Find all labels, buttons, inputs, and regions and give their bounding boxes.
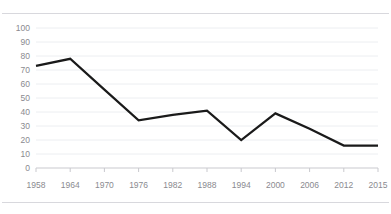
axis-group bbox=[36, 168, 378, 172]
chart-top-rule bbox=[2, 13, 389, 14]
y-axis-tick-label: 30 bbox=[0, 122, 30, 131]
plot-area: 1009080706050403020100 19581964197019761… bbox=[0, 16, 391, 200]
y-axis-tick-label: 20 bbox=[0, 136, 30, 145]
plot-svg bbox=[0, 16, 391, 200]
chart-title bbox=[0, 0, 391, 2]
y-axis-tick-label: 70 bbox=[0, 66, 30, 75]
x-axis-tick-label: 2015 bbox=[358, 180, 391, 190]
y-axis-tick-label: 100 bbox=[0, 24, 30, 33]
y-axis-tick-label: 90 bbox=[0, 38, 30, 47]
data-series-group bbox=[36, 59, 378, 146]
y-axis-tick-label: 50 bbox=[0, 94, 30, 103]
data-line-series-0 bbox=[36, 59, 378, 146]
y-axis-tick-label: 10 bbox=[0, 150, 30, 159]
chart-bottom-rule bbox=[2, 202, 389, 203]
y-axis-tick-label: 80 bbox=[0, 52, 30, 61]
y-axis-tick-label: 60 bbox=[0, 80, 30, 89]
y-axis-tick-label: 0 bbox=[0, 164, 30, 173]
line-chart-figure: 1009080706050403020100 19581964197019761… bbox=[0, 0, 391, 214]
y-axis-tick-label: 40 bbox=[0, 108, 30, 117]
gridlines-group bbox=[36, 28, 378, 154]
